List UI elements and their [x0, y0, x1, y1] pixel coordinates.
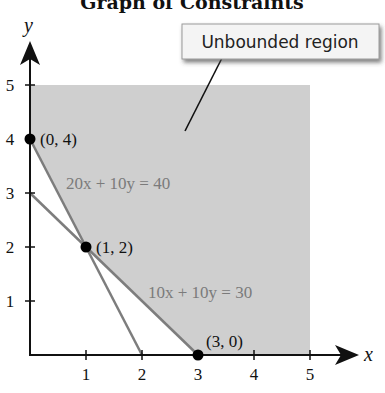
x-tick-label: 3: [194, 365, 203, 384]
callout-box: Unbounded region: [182, 24, 379, 59]
y-tick-label: 3: [6, 184, 15, 203]
vertex-label: (3, 0): [206, 332, 243, 351]
vertex-point: [25, 134, 36, 145]
y-tick-label: 2: [6, 238, 15, 257]
y-tick-label: 1: [6, 292, 15, 311]
callout-text: Unbounded region: [201, 32, 358, 52]
equation-label-20x-10y-40: 20x + 10y = 40: [66, 174, 170, 193]
x-tick-label: 2: [138, 365, 147, 384]
x-tick-label: 4: [250, 365, 259, 384]
y-tick-label: 5: [6, 76, 15, 95]
vertex-point: [193, 350, 204, 361]
graph-title: Graph of Constraints: [80, 0, 304, 13]
vertex-label: (1, 2): [96, 238, 133, 257]
x-tick-label: 5: [306, 365, 315, 384]
y-axis-label: y: [22, 14, 33, 37]
x-axis-label: x: [363, 343, 373, 365]
constraint-graph: Graph of Constraints x y 1234512345 (0, …: [0, 0, 385, 393]
vertex-point: [81, 242, 92, 253]
y-tick-label: 4: [6, 130, 15, 149]
vertex-label: (0, 4): [40, 130, 77, 149]
x-tick-label: 1: [82, 365, 91, 384]
equation-label-10x-10y-30: 10x + 10y = 30: [148, 283, 252, 302]
